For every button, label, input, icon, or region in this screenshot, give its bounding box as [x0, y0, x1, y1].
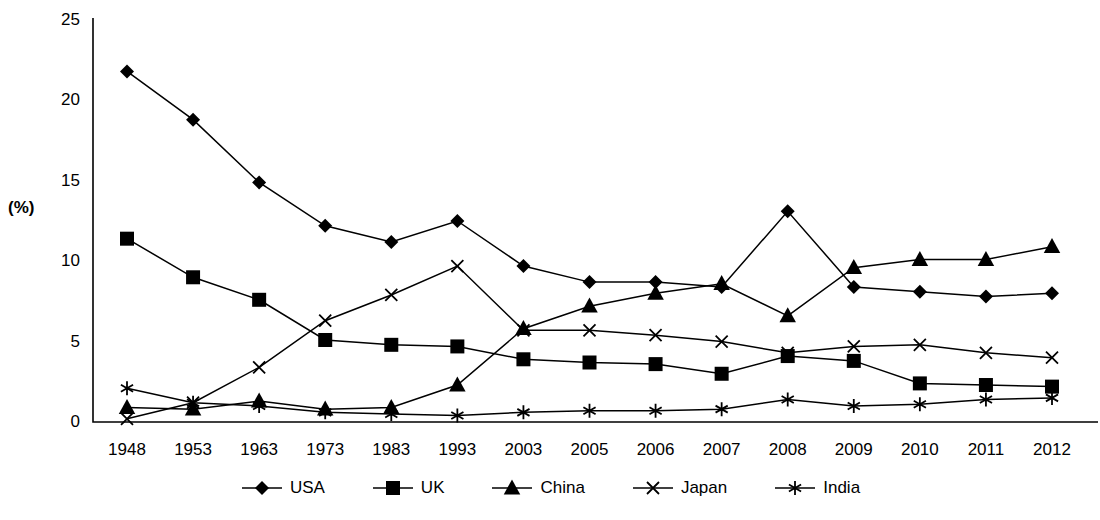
data-point-square: [186, 270, 200, 284]
data-point-square: [979, 378, 993, 392]
plot-area: [0, 0, 1100, 470]
data-point-triangle: [779, 307, 796, 322]
data-point-diamond: [516, 259, 530, 273]
data-point-x: [385, 289, 397, 301]
data-point-diamond: [120, 64, 134, 78]
data-point-square: [715, 367, 729, 381]
legend-label: USA: [290, 479, 325, 497]
data-point-square: [649, 357, 663, 371]
data-point-triangle: [713, 275, 730, 290]
data-point-square: [384, 338, 398, 352]
data-point-triangle: [1044, 238, 1061, 253]
data-point-triangle: [912, 251, 929, 266]
legend-label: Japan: [681, 479, 727, 497]
data-point-x: [121, 413, 133, 425]
series-usa: [120, 64, 1059, 303]
legend-label: India: [823, 479, 860, 497]
chart-legend: USAUKChinaJapanIndia: [0, 478, 1100, 498]
data-point-square: [386, 481, 400, 495]
data-point-square: [252, 293, 266, 307]
data-point-diamond: [450, 214, 464, 228]
data-point-square: [450, 339, 464, 353]
data-point-triangle: [449, 376, 466, 391]
data-point-diamond: [913, 285, 927, 299]
data-point-diamond: [318, 219, 332, 233]
data-point-square: [516, 352, 530, 366]
data-point-square: [583, 356, 597, 370]
data-point-square: [847, 354, 861, 368]
data-point-triangle: [119, 399, 136, 414]
legend-item-uk[interactable]: UK: [371, 478, 445, 498]
data-point-asterisk: [121, 381, 133, 395]
data-point-diamond: [384, 235, 398, 249]
data-point-triangle: [504, 479, 521, 494]
series-line: [127, 71, 1052, 296]
data-point-diamond: [1045, 286, 1059, 300]
data-point-diamond: [979, 290, 993, 304]
legend-item-japan[interactable]: Japan: [631, 478, 727, 498]
legend-marker-diamond-icon: [240, 478, 284, 498]
data-point-x: [451, 260, 463, 272]
data-point-diamond: [255, 481, 269, 495]
data-point-square: [120, 232, 134, 246]
legend-label: China: [540, 479, 584, 497]
legend-marker-triangle-icon: [490, 478, 534, 498]
legend-item-china[interactable]: China: [490, 478, 584, 498]
data-point-square: [913, 376, 927, 390]
legend-item-usa[interactable]: USA: [240, 478, 325, 498]
legend-marker-asterisk-icon: [773, 478, 817, 498]
data-point-triangle: [515, 320, 532, 335]
data-point-x: [253, 361, 265, 373]
data-point-diamond: [583, 275, 597, 289]
data-point-square: [318, 333, 332, 347]
legend-marker-x-icon: [631, 478, 675, 498]
line-chart: (%) 0510152025 1948195319631973198319932…: [0, 0, 1100, 520]
legend-marker-square-icon: [371, 478, 415, 498]
legend-item-india[interactable]: India: [773, 478, 860, 498]
legend-label: UK: [421, 479, 445, 497]
data-point-square: [781, 349, 795, 363]
data-point-x: [319, 315, 331, 327]
